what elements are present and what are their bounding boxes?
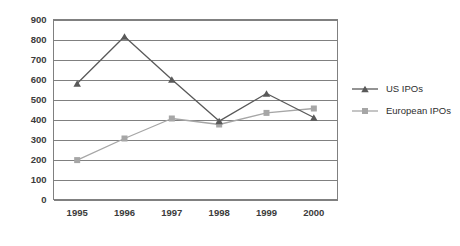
data-point-marker — [169, 116, 175, 122]
x-tick-label: 1995 — [67, 207, 89, 218]
data-point-marker — [264, 110, 270, 116]
y-tick-label: 600 — [31, 74, 47, 85]
x-tick-label: 1999 — [256, 207, 277, 218]
x-tick-label: 1998 — [209, 207, 230, 218]
y-tick-label: 400 — [31, 114, 47, 125]
legend-label: US IPOs — [386, 83, 423, 94]
legend-label: European IPOs — [386, 105, 451, 116]
y-tick-label: 500 — [31, 94, 47, 105]
chart-canvas: 0100200300400500600700800900 19951996199… — [0, 0, 460, 246]
y-tick-label: 900 — [31, 14, 47, 25]
y-tick-label: 800 — [31, 34, 47, 45]
y-tick-label: 200 — [31, 154, 47, 165]
square-icon — [362, 108, 368, 114]
y-tick-label: 700 — [31, 54, 47, 65]
y-tick-label: 300 — [31, 134, 47, 145]
line-chart: 0100200300400500600700800900 19951996199… — [0, 0, 460, 246]
data-point-marker — [74, 157, 80, 163]
y-tick-label: 100 — [31, 174, 47, 185]
data-point-marker — [122, 136, 128, 142]
x-tick-label: 1997 — [161, 207, 182, 218]
x-tick-label: 1996 — [114, 207, 135, 218]
data-point-marker — [311, 106, 317, 112]
y-tick-label: 0 — [41, 194, 46, 205]
x-tick-label: 2000 — [303, 207, 324, 218]
